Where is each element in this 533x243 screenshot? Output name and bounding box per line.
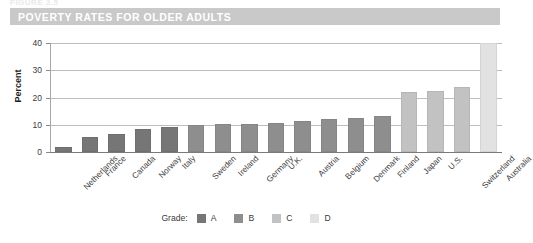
bar-belgium xyxy=(321,119,337,152)
x-axis-label: Sweden xyxy=(211,154,238,181)
bar-netherlands xyxy=(55,147,71,152)
bar-austria xyxy=(294,121,310,152)
legend-swatch-icon xyxy=(197,214,206,223)
bar-sweden xyxy=(188,125,204,152)
x-axis-label: Ireland xyxy=(236,154,260,178)
legend-swatch-icon xyxy=(272,214,281,223)
bar-switzerland xyxy=(454,87,470,152)
bar-france xyxy=(82,137,98,152)
legend-label: D xyxy=(324,213,330,223)
x-axis-label: U.S. xyxy=(446,154,464,172)
legend-item-c: C xyxy=(272,213,292,223)
bar-canada xyxy=(108,134,124,152)
x-axis-label: Italy xyxy=(180,154,197,171)
x-axis-label: Belgium xyxy=(344,154,371,181)
bar-us xyxy=(427,91,443,152)
x-axis-line xyxy=(50,152,502,153)
figure-title-band: POVERTY RATES FOR OLDER ADULTS xyxy=(10,8,500,25)
legend-item-a: A xyxy=(197,213,217,223)
x-axis-label: Austria xyxy=(316,154,340,178)
page-title: POVERTY RATES FOR OLDER ADULTS xyxy=(18,11,231,23)
bar-ireland xyxy=(215,124,231,152)
bar-germany xyxy=(241,124,257,152)
bars-layer xyxy=(50,43,502,152)
x-axis-labels: NetherlandsFranceCanadaNorwayItalySweden… xyxy=(50,154,502,214)
bar-italy xyxy=(161,127,177,152)
y-axis-tick-label: 40 xyxy=(0,38,42,48)
chart-area: Percent 010203040 NetherlandsFranceCanad… xyxy=(0,30,510,243)
legend-label: A xyxy=(211,213,217,223)
chart-legend: Grade: ABCD xyxy=(0,208,510,228)
legend-swatch-icon xyxy=(310,214,319,223)
x-axis-label: Canada xyxy=(131,154,158,181)
x-axis-label: Norway xyxy=(157,154,183,180)
legend-label: B xyxy=(248,213,254,223)
legend-label: C xyxy=(286,213,292,223)
y-axis-tick-label: 20 xyxy=(0,93,42,103)
y-axis-tick-label: 10 xyxy=(0,120,42,130)
legend-item-b: B xyxy=(234,213,254,223)
x-axis-label: Denmark xyxy=(371,154,401,184)
bar-finland xyxy=(374,116,390,152)
legend-swatch-icon xyxy=(234,214,243,223)
bar-denmark xyxy=(348,118,364,152)
bar-australia xyxy=(480,43,496,152)
legend-title: Grade: xyxy=(161,213,187,223)
y-axis-tick-label: 30 xyxy=(0,65,42,75)
y-axis-title: Percent xyxy=(13,46,23,126)
legend-item-d: D xyxy=(310,213,330,223)
y-axis-tick-label: 0 xyxy=(0,147,42,157)
bar-norway xyxy=(135,129,151,152)
bar-japan xyxy=(401,92,417,152)
bar-uk xyxy=(268,123,284,152)
x-axis-label: Japan xyxy=(421,154,443,176)
figure-number: FIGURE 2.5 xyxy=(10,0,59,7)
